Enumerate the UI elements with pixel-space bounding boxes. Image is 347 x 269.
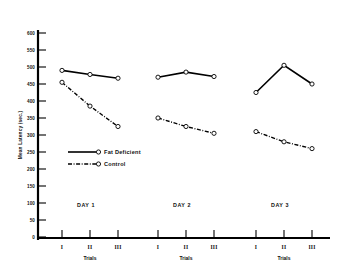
legend-marker-control <box>96 162 100 166</box>
day-label: DAY 1 <box>77 202 95 208</box>
y-tick-label: 400 <box>27 99 35 104</box>
data-point-control <box>156 116 160 120</box>
x-tick-label: II <box>184 244 189 250</box>
trials-label: Trials <box>179 255 192 261</box>
y-tick-label: 550 <box>27 48 35 53</box>
chart-figure: 600550500450400350300250200150100500 Mea… <box>0 0 347 269</box>
y-tick-label: 450 <box>27 82 35 87</box>
x-axis: IIIIIIIIIIIIIIIIII TrialsTrialsTrials DA… <box>37 202 330 261</box>
x-tick-label: III <box>308 244 315 250</box>
trials-label: Trials <box>83 255 96 261</box>
legend-label-fat-deficient: Fat Deficient <box>104 149 141 155</box>
x-tick-label: III <box>114 244 121 250</box>
x-tick-label: II <box>282 244 287 250</box>
x-tick-label: II <box>88 244 93 250</box>
data-point-control <box>282 140 286 144</box>
chart-legend: Fat Deficient Control <box>68 149 141 167</box>
y-tick-label: 200 <box>27 167 35 172</box>
data-point-fat-deficient <box>184 70 188 74</box>
y-axis-title: Mean Latency (sec.) <box>18 111 23 160</box>
line-chart: 600550500450400350300250200150100500 Mea… <box>0 0 347 269</box>
series-line-fat-deficient <box>256 65 312 92</box>
x-axis-group-labels: TrialsTrialsTrials <box>83 255 290 261</box>
data-point-control <box>254 130 258 134</box>
data-point-control <box>212 131 216 135</box>
y-tick-label: 250 <box>27 150 35 155</box>
data-point-control <box>184 124 188 128</box>
data-point-fat-deficient <box>254 90 258 94</box>
x-tick-label: I <box>157 244 159 250</box>
data-point-fat-deficient <box>310 82 314 86</box>
x-tick-label: I <box>61 244 63 250</box>
legend-label-control: Control <box>104 161 126 167</box>
data-point-control <box>88 104 92 108</box>
data-series <box>60 63 314 150</box>
data-point-fat-deficient <box>212 74 216 78</box>
data-point-fat-deficient <box>60 68 64 72</box>
y-tick-label: 0 <box>32 235 35 240</box>
y-tick-label: 500 <box>27 65 35 70</box>
y-tick-label: 350 <box>27 116 35 121</box>
y-tick-label: 50 <box>30 218 36 223</box>
y-tick-label: 300 <box>27 133 35 138</box>
legend-marker-fat-deficient <box>96 150 100 154</box>
y-tick-label: 100 <box>27 201 35 206</box>
day-label: DAY 2 <box>173 202 191 208</box>
data-point-control <box>116 124 120 128</box>
data-point-control <box>310 147 314 151</box>
data-point-fat-deficient <box>88 72 92 76</box>
day-label: DAY 3 <box>271 202 289 208</box>
x-tick-label: III <box>210 244 217 250</box>
data-point-fat-deficient <box>282 63 286 67</box>
y-tick-label: 150 <box>27 184 35 189</box>
y-axis-ticks: 600550500450400350300250200150100500 <box>27 31 46 240</box>
trials-label: Trials <box>277 255 290 261</box>
x-axis-ticks <box>62 230 312 238</box>
y-axis: 600550500450400350300250200150100500 Mea… <box>18 30 46 240</box>
y-tick-label: 600 <box>27 31 35 36</box>
data-point-fat-deficient <box>116 76 120 80</box>
data-point-control <box>60 80 64 84</box>
x-axis-trial-labels: IIIIIIIIIIIIIIIIII <box>61 244 316 250</box>
data-point-fat-deficient <box>156 75 160 79</box>
day-labels: DAY 1DAY 2DAY 3 <box>77 202 289 208</box>
x-tick-label: I <box>255 244 257 250</box>
